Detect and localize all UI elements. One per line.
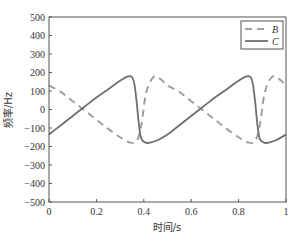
legend-label-b: B (272, 24, 278, 35)
y-axis-title: 频率/Hz (2, 92, 14, 128)
y-tick-label: 200 (30, 67, 45, 78)
chart-container: 5004003002001000−100−200−300−400−50000.2… (0, 0, 296, 241)
series-line-b (49, 76, 286, 143)
y-tick-label: −500 (24, 197, 45, 208)
y-tick-label: 500 (30, 12, 45, 23)
series-line-c (49, 76, 286, 143)
x-tick-label: 0.8 (232, 206, 245, 217)
legend-label-c: C (272, 36, 279, 47)
line-chart: 5004003002001000−100−200−300−400−50000.2… (0, 0, 296, 241)
y-tick-label: 400 (30, 30, 45, 41)
y-tick-label: 300 (30, 49, 45, 60)
y-tick-label: 0 (40, 104, 45, 115)
y-tick-label: −300 (24, 160, 45, 171)
legend: BC (241, 21, 283, 49)
x-tick-label: 0.2 (90, 206, 103, 217)
x-tick-label: 0.6 (185, 206, 198, 217)
y-tick-label: −400 (24, 178, 45, 189)
x-tick-label: 1 (284, 206, 289, 217)
plot-series (49, 76, 286, 143)
x-tick-label: 0.4 (138, 206, 151, 217)
y-tick-label: 100 (30, 86, 45, 97)
y-tick-label: −200 (24, 141, 45, 152)
x-tick-label: 0 (47, 206, 52, 217)
y-tick-label: −100 (24, 123, 45, 134)
x-axis-title: 时间/s (153, 221, 182, 233)
